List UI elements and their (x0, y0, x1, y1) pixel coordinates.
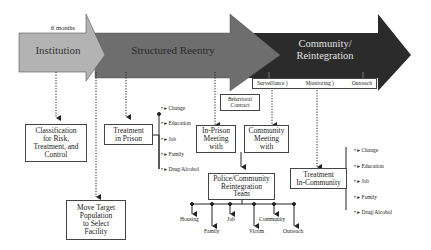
treatment-area-item: • ▸ Family (354, 190, 392, 206)
community-treatment-list: • ▸ Change • ▸ Education • ▸ Job • ▸ Fam… (354, 143, 392, 221)
treatment-area-label: Job (361, 178, 369, 184)
treatment-area-label: Drug/Alcohol (361, 209, 392, 215)
treatment-area-item: • ▸ Education (354, 159, 392, 175)
treatment-area-item: • ▸ Drug/Alcohol (354, 205, 392, 221)
treatment-in-community-box: Treatment In-Community (290, 168, 347, 189)
box-line: In-Community (291, 179, 346, 187)
treatment-area-item: • ▸ Change (354, 143, 392, 159)
treatment-area-label: Change (361, 147, 378, 153)
treatment-area-label: Education (361, 163, 383, 169)
treatment-area-label: Family (361, 194, 377, 200)
treatment-area-item: • ▸ Job (354, 174, 392, 190)
